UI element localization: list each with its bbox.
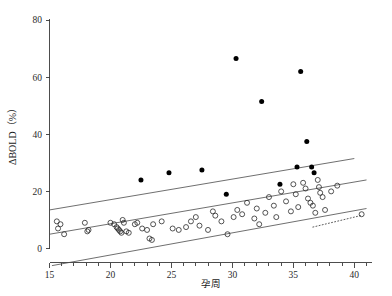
regression-line-extrapolation-dotted [313, 216, 361, 227]
data-point-open [323, 207, 328, 212]
y-tick-label: 60 [33, 73, 43, 83]
data-point-open [170, 226, 175, 231]
data-point-open [86, 227, 91, 232]
regression-line-upper-bound [50, 159, 355, 210]
x-tick-label: 40 [350, 270, 360, 280]
data-point-open [62, 232, 67, 237]
x-axis-title: 孕周 [201, 278, 221, 289]
data-point-filled [259, 99, 264, 104]
data-point-open [301, 180, 306, 185]
y-tick-labels: 020406080 [33, 15, 43, 254]
data-point-open [231, 215, 236, 220]
data-point-open [240, 212, 245, 217]
data-point-filled [298, 69, 303, 74]
data-point-open [284, 199, 289, 204]
data-point-open [279, 189, 284, 194]
data-point-open [58, 222, 63, 227]
data-point-open [252, 216, 257, 221]
scatter-plot-figure: 020406080 152025303540 孕周 ΔBOLD（%） [0, 0, 392, 296]
data-point-open [245, 200, 250, 205]
data-point-open [291, 182, 296, 187]
data-point-open [176, 227, 181, 232]
regression-lines [50, 159, 367, 266]
x-tick-label: 30 [228, 270, 238, 280]
data-point-open [140, 226, 145, 231]
data-point-open [219, 219, 224, 224]
data-point-open [82, 220, 87, 225]
x-tick-label: 15 [45, 270, 55, 280]
data-point-open [274, 215, 279, 220]
data-points-filled-dots [138, 56, 316, 197]
regression-line-mean-fit [50, 180, 367, 234]
data-point-open [293, 192, 298, 197]
data-point-filled [304, 139, 309, 144]
y-tick-label: 40 [33, 130, 43, 140]
data-point-open [296, 205, 301, 210]
data-point-open [254, 206, 259, 211]
data-point-open [263, 210, 268, 215]
data-point-filled [199, 167, 204, 172]
y-axis-title: ΔBOLD（%） [7, 103, 18, 165]
data-point-open [145, 227, 150, 232]
y-tick-marks [46, 20, 50, 249]
data-point-open [257, 222, 262, 227]
data-point-filled [138, 177, 143, 182]
x-tick-label: 35 [289, 270, 299, 280]
data-points-open-circles [54, 177, 364, 242]
data-point-open [316, 185, 321, 190]
data-point-open [188, 219, 193, 224]
data-point-filled [166, 170, 171, 175]
data-point-open [121, 220, 126, 225]
data-point-open [85, 229, 90, 234]
data-point-open [315, 177, 320, 182]
data-point-open [359, 212, 364, 217]
data-point-filled [312, 170, 317, 175]
data-point-open [159, 219, 164, 224]
y-tick-label: 20 [33, 187, 43, 197]
data-point-filled [224, 192, 229, 197]
data-point-open [329, 189, 334, 194]
data-point-filled [234, 56, 239, 61]
data-point-open [288, 209, 293, 214]
data-point-open [313, 210, 318, 215]
data-point-open [151, 222, 156, 227]
regression-line-lower-bound [52, 209, 367, 266]
data-point-open [206, 227, 211, 232]
data-point-open [235, 207, 240, 212]
data-point-open [213, 213, 218, 218]
data-point-filled [309, 165, 314, 170]
y-tick-label: 0 [37, 244, 42, 254]
plot-svg: 020406080 152025303540 孕周 ΔBOLD（%） [0, 0, 392, 296]
y-tick-label: 80 [33, 15, 43, 25]
data-point-open [320, 195, 325, 200]
data-point-open [184, 225, 189, 230]
data-point-filled [295, 165, 300, 170]
x-tick-label: 25 [167, 270, 177, 280]
data-point-filled [277, 182, 282, 187]
data-point-open [197, 223, 202, 228]
data-point-open [193, 215, 198, 220]
data-point-open [271, 203, 276, 208]
y-axis: 020406080 [33, 15, 50, 254]
x-tick-label: 20 [106, 270, 116, 280]
x-tick-marks [50, 263, 367, 268]
